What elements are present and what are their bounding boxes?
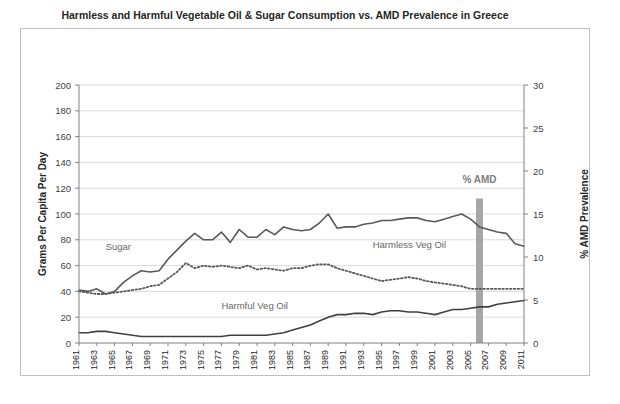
x-tick-label: 1977 (213, 350, 223, 370)
y-tick-label: 20 (60, 312, 71, 323)
gridlines (79, 85, 524, 317)
series-line-sugar (79, 214, 524, 294)
x-tick-label: 1975 (196, 350, 206, 370)
x-tick-label: 1965 (107, 350, 117, 370)
x-tick-label: 1983 (267, 350, 277, 370)
amd-prevalence-bar (476, 199, 483, 343)
y2-axis-ticks: 051015202530 (524, 80, 544, 349)
x-tick-label: 1991 (338, 350, 348, 370)
y2-tick-label: 20 (533, 166, 544, 177)
y2-tick-label: 15 (533, 209, 544, 220)
x-tick-label: 1987 (302, 350, 312, 370)
x-tick-label: 1999 (409, 350, 419, 370)
harmless-veg-oil-label: Harmless Veg Oil (373, 239, 446, 250)
x-tick-label: 1963 (89, 350, 99, 370)
x-tick-label: 1979 (231, 350, 241, 370)
y-tick-label: 120 (55, 183, 71, 194)
x-tick-label: 1985 (285, 350, 295, 370)
x-tick-label: 1993 (356, 350, 366, 370)
x-tick-label: 1973 (178, 350, 188, 370)
x-tick-label: 2007 (480, 350, 490, 370)
chart-markers (476, 199, 483, 343)
x-tick-label: 1969 (142, 350, 152, 370)
sugar-label: Sugar (106, 241, 131, 252)
series-line-harmless-veg-oil (79, 300, 524, 336)
y2-tick-label: 10 (533, 252, 544, 263)
series-line-harmful-veg-oil (79, 263, 524, 294)
y2-tick-label: 30 (533, 80, 544, 91)
x-tick-label: 2003 (445, 350, 455, 370)
y-tick-label: 80 (60, 234, 71, 245)
y2-axis-label: % AMD Prevalence (579, 169, 590, 259)
x-axis-ticks: 1961196319651967196919711973197519771979… (71, 343, 526, 370)
x-tick-label: 1961 (71, 350, 81, 370)
series-lines (79, 214, 524, 337)
y-tick-label: 0 (66, 338, 71, 349)
chart-canvas: 020406080100120140160180200 051015202530… (0, 0, 620, 404)
x-tick-label: 1995 (374, 350, 384, 370)
x-tick-label: 1997 (391, 350, 401, 370)
chart-annotations: SugarHarmful Veg OilHarmless Veg Oil% AM… (106, 174, 497, 311)
x-tick-label: 2005 (463, 350, 473, 370)
y-axis-ticks: 020406080100120140160180200 (55, 80, 79, 349)
y2-tick-label: 25 (533, 123, 544, 134)
y-axis-label: Grams Per Capita Per Day (37, 152, 48, 276)
y-tick-label: 180 (55, 105, 71, 116)
y-tick-label: 200 (55, 80, 71, 91)
y-tick-label: 60 (60, 260, 71, 271)
y-tick-label: 100 (55, 209, 71, 220)
x-tick-label: 1967 (124, 350, 134, 370)
x-tick-label: 1989 (320, 350, 330, 370)
chart-svg: 020406080100120140160180200 051015202530… (0, 0, 620, 404)
y2-tick-label: 5 (533, 295, 538, 306)
y-tick-label: 140 (55, 157, 71, 168)
y-tick-label: 160 (55, 131, 71, 142)
amd-marker-label: % AMD (462, 174, 496, 185)
y2-tick-label: 0 (533, 338, 538, 349)
x-tick-label: 1981 (249, 350, 259, 370)
harmful-veg-oil-label: Harmful Veg Oil (221, 300, 288, 311)
x-tick-label: 2011 (516, 350, 526, 369)
x-tick-label: 1971 (160, 350, 170, 370)
x-tick-label: 2009 (498, 350, 508, 370)
y-tick-label: 40 (60, 286, 71, 297)
x-tick-label: 2001 (427, 350, 437, 370)
